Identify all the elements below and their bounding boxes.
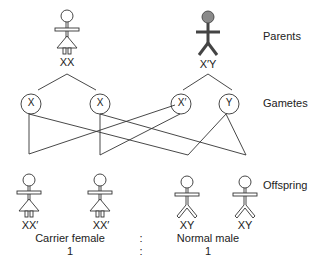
row-label-parents: Parents <box>263 30 301 42</box>
offspring-genotype-1: XX′ <box>22 219 39 231</box>
parent-gamete-lines <box>38 74 232 90</box>
gamete-circles <box>21 94 239 114</box>
offspring-genotype-4: XY <box>238 219 253 231</box>
offspring-female-2 <box>88 174 112 217</box>
offspring-female-1 <box>17 174 41 217</box>
male-parent-figure <box>196 11 220 55</box>
offspring-genotype-3: XY <box>180 219 195 231</box>
offspring-male-2 <box>233 176 257 218</box>
gamete-label-3: X′ <box>178 97 187 108</box>
summary-right-ratio: 1 <box>205 245 211 257</box>
row-label-gametes: Gametes <box>263 97 308 109</box>
summary-separator: : <box>139 232 142 244</box>
female-parent-genotype: XX <box>60 56 75 68</box>
offspring-genotype-2: XX′ <box>93 219 110 231</box>
summary-right-label: Normal male <box>177 232 239 244</box>
male-parent-genotype: X′Y <box>200 58 217 70</box>
female-parent-figure <box>55 10 79 54</box>
row-label-offspring: Offspring <box>263 179 307 191</box>
gamete-label-4: Y <box>226 97 233 108</box>
summary-left-label: Carrier female <box>35 232 105 244</box>
summary-ratio-separator: : <box>139 245 142 257</box>
summary-left-ratio: 1 <box>67 245 73 257</box>
gamete-label-2: X <box>97 97 104 108</box>
gamete-label-1: X <box>28 97 35 108</box>
offspring-male-1 <box>175 176 199 218</box>
cross-lines <box>29 105 246 155</box>
